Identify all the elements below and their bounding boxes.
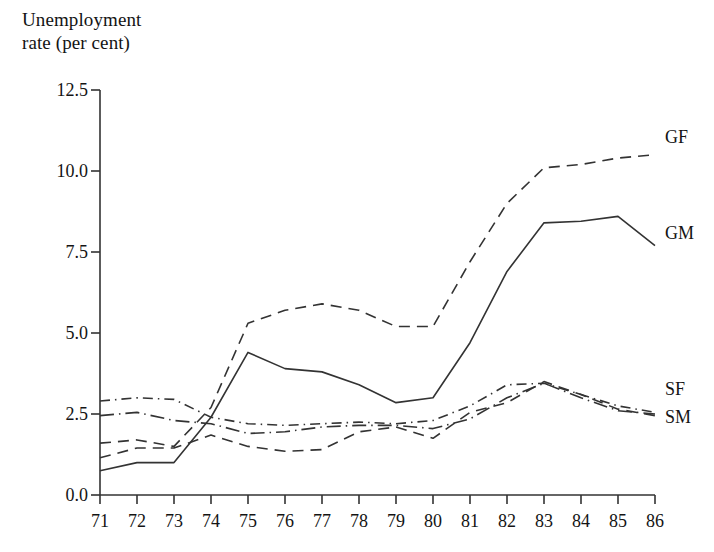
axis-lines <box>100 90 655 495</box>
series-label-sm: SM <box>665 407 691 428</box>
x-tick-label: 86 <box>646 511 664 532</box>
x-tick-label: 85 <box>609 511 627 532</box>
y-tick-label: 0.0 <box>30 485 88 506</box>
y-tick-label: 7.5 <box>30 242 88 263</box>
x-tick-label: 82 <box>498 511 516 532</box>
unemployment-rate-chart: Unemployment rate (per cent) 0.02.55.07.… <box>0 0 714 552</box>
x-tick-label: 71 <box>91 511 109 532</box>
y-tick-label: 10.0 <box>30 161 88 182</box>
data-series-group <box>100 155 655 471</box>
series-label-sf: SF <box>665 379 685 400</box>
x-tick-label: 75 <box>239 511 257 532</box>
x-tick-label: 81 <box>461 511 479 532</box>
y-tick-marks <box>91 90 100 495</box>
x-tick-label: 74 <box>202 511 220 532</box>
x-tick-label: 72 <box>128 511 146 532</box>
y-tick-label: 2.5 <box>30 404 88 425</box>
x-tick-label: 84 <box>572 511 590 532</box>
x-tick-label: 77 <box>313 511 331 532</box>
x-tick-label: 83 <box>535 511 553 532</box>
series-label-gm: GM <box>665 223 694 244</box>
series-line-gm <box>100 216 655 470</box>
x-tick-label: 76 <box>276 511 294 532</box>
x-tick-label: 78 <box>350 511 368 532</box>
series-line-gf <box>100 155 655 447</box>
series-line-sf <box>100 383 655 425</box>
y-tick-label: 12.5 <box>30 80 88 101</box>
x-tick-label: 79 <box>387 511 405 532</box>
x-tick-marks <box>100 495 655 504</box>
series-line-sm <box>100 383 655 433</box>
y-tick-label: 5.0 <box>30 323 88 344</box>
series-label-gf: GF <box>665 127 688 148</box>
x-tick-label: 80 <box>424 511 442 532</box>
x-tick-label: 73 <box>165 511 183 532</box>
plot-area <box>0 0 714 552</box>
